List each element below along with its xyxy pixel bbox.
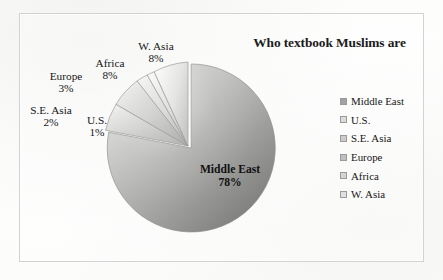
chart-title: Who textbook Muslims are: [237, 35, 422, 51]
legend-swatch-icon: [340, 98, 347, 105]
legend-item-africa[interactable]: Africa: [340, 166, 426, 185]
legend-label: Middle East: [351, 95, 404, 107]
chart-screenshot: Who textbook Muslims are: [0, 0, 443, 280]
slice-label-se-asia-pct: 2%: [20, 116, 82, 128]
legend-item-europe[interactable]: Europe: [340, 148, 426, 167]
legend-swatch-icon: [340, 191, 347, 198]
legend-swatch-icon: [340, 135, 347, 142]
slice-label-us: U.S. 1%: [78, 114, 116, 138]
legend-item-us[interactable]: U.S.: [340, 111, 426, 130]
legend-label: S.E. Asia: [351, 132, 391, 144]
slice-label-middle-east-pct: 78%: [218, 176, 241, 189]
legend-label: Africa: [351, 170, 379, 182]
legend-label: U.S.: [351, 114, 370, 126]
slice-label-w-asia-pct: 8%: [128, 52, 184, 64]
legend-item-middle-east[interactable]: Middle East: [340, 92, 426, 111]
slice-label-w-asia: W. Asia 8%: [128, 40, 184, 64]
slice-label-europe-name: Europe: [50, 70, 83, 82]
slice-label-w-asia-name: W. Asia: [138, 40, 173, 52]
chart-legend: Middle East U.S. S.E. Asia Europe Africa…: [340, 92, 426, 204]
legend-swatch-icon: [340, 116, 347, 123]
legend-label: Europe: [351, 151, 382, 163]
legend-swatch-icon: [340, 172, 347, 179]
pie-chart: [98, 58, 280, 234]
slice-label-europe: Europe 3%: [38, 70, 94, 94]
legend-item-se-asia[interactable]: S.E. Asia: [340, 129, 426, 148]
slice-label-se-asia: S.E. Asia 2%: [20, 104, 82, 128]
pie-chart-svg: [98, 58, 280, 234]
slice-label-se-asia-name: S.E. Asia: [30, 104, 72, 116]
legend-swatch-icon: [340, 154, 347, 161]
slice-label-africa-name: Africa: [96, 57, 125, 69]
legend-label: W. Asia: [351, 188, 385, 200]
slice-label-middle-east-name: Middle East: [200, 163, 260, 176]
legend-item-w-asia[interactable]: W. Asia: [340, 185, 426, 204]
slice-label-us-pct: 1%: [78, 126, 116, 138]
slice-label-us-name: U.S.: [87, 114, 107, 126]
slice-label-europe-pct: 3%: [38, 82, 94, 94]
slice-label-middle-east: Middle East 78%: [182, 163, 278, 189]
